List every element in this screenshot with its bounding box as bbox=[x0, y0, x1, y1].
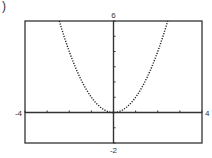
ymin-label: -2 bbox=[110, 146, 118, 155]
graph-window: 6 -2 -4 4 bbox=[0, 0, 212, 158]
xmax-label: 4 bbox=[205, 109, 210, 118]
ymax-label: 6 bbox=[111, 11, 116, 20]
xmin-label: -4 bbox=[15, 109, 23, 118]
